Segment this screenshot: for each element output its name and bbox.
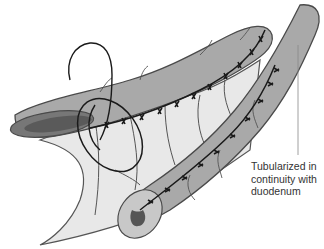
- annotation-label: Tubularized in continuity with duodenum: [251, 160, 317, 198]
- annotation-line-3: duodenum: [251, 185, 317, 198]
- annotation-line-2: continuity with: [251, 173, 317, 186]
- surgical-illustration: [0, 0, 324, 249]
- annotation-line-1: Tubularized in: [251, 160, 317, 173]
